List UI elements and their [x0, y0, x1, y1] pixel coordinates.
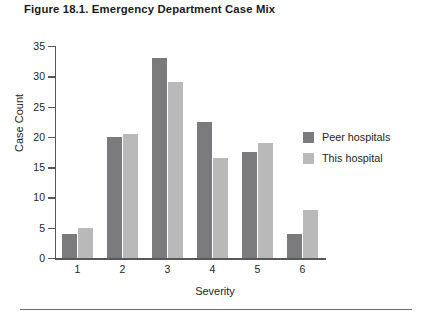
y-tick-label: 10 [33, 191, 45, 203]
y-tick-label: 15 [33, 161, 45, 173]
y-tick-label: 30 [33, 70, 45, 82]
x-tick-label: 2 [120, 263, 126, 275]
x-tick-label: 6 [300, 263, 306, 275]
y-tick-mark [48, 228, 55, 229]
footer-divider [20, 309, 412, 310]
y-tick-label: 35 [33, 40, 45, 52]
legend-label: This hospital [322, 152, 383, 164]
y-tick-label: 5 [39, 222, 45, 234]
bar-this-hospital-severity-2 [123, 134, 138, 258]
plot-area: 05101520253035 [55, 46, 325, 258]
y-tick-label: 0 [39, 252, 45, 264]
y-tick-label: 25 [33, 101, 45, 113]
y-tick-mark [48, 107, 55, 108]
y-tick-mark [48, 46, 55, 47]
bar-this-hospital-severity-3 [168, 82, 183, 258]
legend-swatch-icon [303, 132, 314, 143]
legend-label: Peer hospitals [322, 131, 390, 143]
x-tick-label: 1 [75, 263, 81, 275]
y-axis-title: Case Count [13, 94, 25, 152]
bar-peer-hospitals-severity-2 [107, 137, 122, 258]
y-tick-mark [48, 197, 55, 198]
bar-this-hospital-severity-1 [78, 228, 93, 258]
x-tick-label: 4 [210, 263, 216, 275]
y-tick-mark [48, 137, 55, 138]
x-axis-title: Severity [0, 285, 430, 297]
bar-this-hospital-severity-6 [303, 210, 318, 258]
y-tick-label: 20 [33, 131, 45, 143]
bar-peer-hospitals-severity-3 [152, 58, 167, 258]
figure-container: Figure 18.1. Emergency Department Case M… [0, 0, 430, 326]
legend-swatch-icon [303, 153, 314, 164]
bar-peer-hospitals-severity-5 [242, 152, 257, 258]
figure-title: Figure 18.1. Emergency Department Case M… [24, 3, 275, 15]
y-tick-mark [48, 167, 55, 168]
bar-peer-hospitals-severity-1 [62, 234, 77, 258]
legend-item: Peer hospitals [303, 131, 390, 143]
y-tick-mark [48, 76, 55, 77]
x-tick-label: 5 [255, 263, 261, 275]
legend: Peer hospitalsThis hospital [303, 131, 390, 173]
bar-this-hospital-severity-5 [258, 143, 273, 258]
bar-this-hospital-severity-4 [213, 158, 228, 258]
legend-item: This hospital [303, 152, 390, 164]
bar-peer-hospitals-severity-6 [287, 234, 302, 258]
bar-peer-hospitals-severity-4 [197, 122, 212, 258]
x-tick-label: 3 [165, 263, 171, 275]
x-axis-line [55, 258, 326, 260]
y-tick-mark [48, 258, 55, 259]
